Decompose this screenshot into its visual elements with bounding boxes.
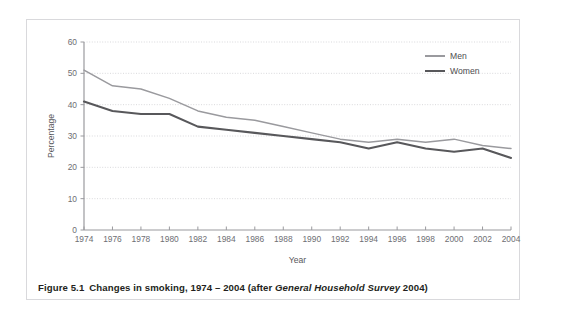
x-tick-label-1980: 1980 xyxy=(160,234,179,244)
legend-item-men: Men xyxy=(425,50,525,62)
y-tick-label-30: 30 xyxy=(68,131,78,141)
x-tick-label-2004: 2004 xyxy=(502,234,521,244)
series-lines-group xyxy=(84,70,511,158)
figure-page: 0102030405060 19741976197819801982198419… xyxy=(0,0,564,317)
caption-text: Changes in smoking, 1974 – 2004 (after xyxy=(89,282,275,293)
y-axis-group: 0102030405060 xyxy=(68,37,84,235)
x-tick-label-2000: 2000 xyxy=(445,234,464,244)
page-top-cut-text xyxy=(0,0,564,11)
x-axis-title: Year xyxy=(289,255,307,265)
legend-label-women: Women xyxy=(450,65,479,77)
legend-swatch-women xyxy=(425,70,445,72)
legend-item-women: Women xyxy=(425,65,525,77)
legend-swatch-men xyxy=(425,55,445,57)
y-tick-label-40: 40 xyxy=(68,100,78,110)
legend-label-men: Men xyxy=(450,50,467,62)
x-tick-label-1976: 1976 xyxy=(103,234,122,244)
x-tick-label-1984: 1984 xyxy=(217,234,236,244)
x-axis-group: 1974197619781980198219841986198819901992… xyxy=(75,227,521,244)
x-tick-label-1978: 1978 xyxy=(132,234,151,244)
caption-source-title: General Household Survey xyxy=(275,282,400,293)
y-axis-title: Percentage xyxy=(46,114,56,158)
chart-legend: Men Women xyxy=(425,50,525,80)
x-tick-label-1982: 1982 xyxy=(189,234,208,244)
x-tick-label-1990: 1990 xyxy=(302,234,321,244)
caption-source-year: 2004) xyxy=(400,282,428,293)
y-tick-label-50: 50 xyxy=(68,68,78,78)
y-tick-label-10: 10 xyxy=(68,194,78,204)
x-tick-label-1988: 1988 xyxy=(274,234,293,244)
caption-figure-number: Figure 5.1 xyxy=(38,282,84,293)
x-tick-label-1996: 1996 xyxy=(388,234,407,244)
x-tick-label-1994: 1994 xyxy=(359,234,378,244)
figure-caption: Figure 5.1Changes in smoking, 1974 – 200… xyxy=(38,282,510,293)
y-tick-label-60: 60 xyxy=(68,37,78,47)
x-tick-label-1992: 1992 xyxy=(331,234,350,244)
x-tick-label-1986: 1986 xyxy=(245,234,264,244)
y-tick-label-20: 20 xyxy=(68,162,78,172)
x-tick-label-1998: 1998 xyxy=(416,234,435,244)
x-tick-label-2002: 2002 xyxy=(473,234,492,244)
figure-box: 0102030405060 19741976197819801982198419… xyxy=(26,19,520,300)
x-tick-label-1974: 1974 xyxy=(75,234,94,244)
